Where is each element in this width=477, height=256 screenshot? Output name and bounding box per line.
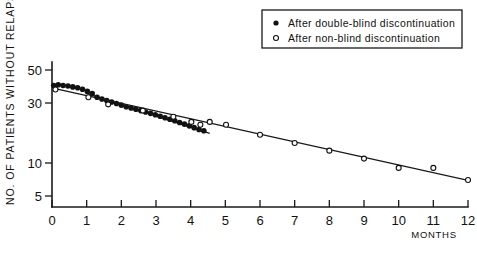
x-tick-label-11: 11 bbox=[427, 213, 441, 228]
data-point bbox=[153, 112, 159, 118]
x-tick-label-8: 8 bbox=[326, 213, 333, 228]
y-tick-label-30: 30 bbox=[28, 96, 42, 111]
y-tick-label-5: 5 bbox=[35, 189, 42, 204]
data-point bbox=[75, 85, 81, 91]
data-point bbox=[327, 148, 332, 153]
y-axis-title: NO. OF PATIENTS WITHOUT RELAPSE bbox=[4, 0, 16, 205]
data-point bbox=[292, 140, 297, 145]
x-tick-label-5: 5 bbox=[222, 213, 229, 228]
legend-label-1: After non-blind discontinuation bbox=[288, 32, 440, 44]
data-point bbox=[171, 114, 176, 119]
data-point bbox=[148, 111, 154, 117]
legend-marker-filled-circle-icon bbox=[273, 20, 278, 25]
data-point bbox=[162, 115, 168, 121]
x-axis: 0123456789101112 MONTHS bbox=[48, 200, 475, 240]
chart-page: After double-blind discontinuation After… bbox=[0, 0, 477, 256]
x-tick-label-6: 6 bbox=[256, 213, 263, 228]
data-point bbox=[466, 177, 471, 182]
data-point bbox=[53, 87, 58, 92]
data-point bbox=[189, 119, 194, 124]
x-tick-label-1: 1 bbox=[83, 213, 90, 228]
y-axis: 50 30 10 5 NO. OF PATIENTS WITHOUT RELAP… bbox=[4, 0, 52, 207]
data-point bbox=[431, 165, 436, 170]
x-tick-group: 0123456789101112 bbox=[48, 200, 475, 228]
data-point bbox=[258, 132, 263, 137]
x-axis-title: MONTHS bbox=[411, 229, 456, 240]
x-tick-label-4: 4 bbox=[187, 213, 194, 228]
y-tick-label-10: 10 bbox=[28, 156, 42, 171]
series-0 bbox=[51, 82, 210, 134]
data-point bbox=[182, 121, 188, 127]
data-point bbox=[65, 83, 71, 89]
legend: After double-blind discontinuation After… bbox=[262, 10, 462, 48]
data-point bbox=[140, 108, 145, 113]
data-point bbox=[362, 156, 367, 161]
x-tick-label-0: 0 bbox=[48, 213, 55, 228]
data-point bbox=[157, 113, 163, 119]
data-point bbox=[198, 122, 203, 127]
data-point bbox=[207, 119, 212, 124]
data-point bbox=[224, 122, 229, 127]
x-tick-label-9: 9 bbox=[360, 213, 367, 228]
y-tick-label-50: 50 bbox=[28, 63, 42, 78]
data-point bbox=[60, 83, 66, 89]
relapse-survival-chart: After double-blind discontinuation After… bbox=[0, 0, 477, 256]
data-point bbox=[396, 165, 401, 170]
data-point bbox=[106, 102, 111, 107]
x-tick-label-2: 2 bbox=[118, 213, 125, 228]
x-tick-label-3: 3 bbox=[152, 213, 159, 228]
x-tick-label-7: 7 bbox=[291, 213, 298, 228]
data-point bbox=[80, 86, 86, 92]
x-tick-label-10: 10 bbox=[391, 213, 405, 228]
legend-label-0: After double-blind discontinuation bbox=[288, 17, 455, 29]
data-point bbox=[191, 125, 197, 131]
x-tick-label-12: 12 bbox=[461, 213, 475, 228]
data-point bbox=[85, 89, 91, 95]
data-point bbox=[201, 128, 207, 134]
data-point bbox=[70, 84, 76, 90]
data-series-layer bbox=[51, 82, 471, 182]
legend-marker-open-circle-icon bbox=[274, 36, 279, 41]
data-point bbox=[86, 95, 91, 100]
data-point bbox=[177, 120, 183, 126]
